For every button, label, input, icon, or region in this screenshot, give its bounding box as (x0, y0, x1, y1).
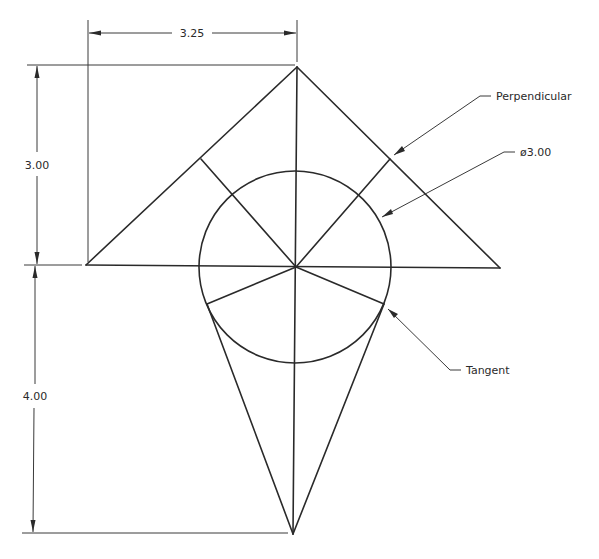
callout-tangent-label: Tangent (465, 364, 510, 377)
vertical-axis-line (293, 67, 297, 534)
extension-lines (22, 20, 297, 533)
dimension-width-label: 3.25 (180, 27, 205, 40)
technical-drawing: 3.25 3.00 4.00 Perpendicular ø3.00 Tange… (0, 0, 599, 559)
dimension-width: 3.25 (89, 27, 296, 40)
drawing-svg: 3.25 3.00 4.00 Perpendicular ø3.00 Tange… (0, 0, 599, 559)
callout-perpendicular-label: Perpendicular (496, 90, 572, 103)
dimension-height-lower: 4.00 (23, 266, 48, 532)
callout-tangent: Tangent (388, 309, 510, 377)
triangle (86, 67, 500, 268)
tangent-lines (207, 304, 384, 534)
callout-diameter: ø3.00 (382, 146, 551, 217)
dimension-height-upper: 3.00 (25, 66, 50, 264)
callout-diameter-label: ø3.00 (520, 146, 551, 159)
dimension-height-upper-label: 3.00 (25, 159, 50, 172)
dimension-height-lower-label: 4.00 (23, 390, 48, 403)
